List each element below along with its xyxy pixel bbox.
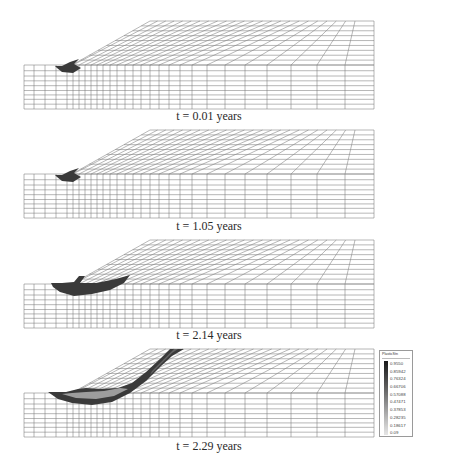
- legend-value: 0.47471: [390, 398, 412, 406]
- legend-value: 0.76324: [390, 375, 412, 383]
- legend-values: 0.9550 0.85942 0.76324 0.66706 0.57088 0…: [390, 360, 412, 437]
- panel-label-2: t = 2.14 years: [109, 328, 309, 343]
- legend-value: 0.66706: [390, 383, 412, 391]
- panel-label-0: t = 0.01 years: [109, 109, 309, 124]
- mesh-panel-1: [24, 130, 374, 218]
- mesh-panel-0: [24, 21, 374, 109]
- legend-value: 0.57088: [390, 391, 412, 399]
- legend-value: 0.9550: [390, 360, 412, 368]
- mesh-panel-3: [24, 349, 374, 437]
- legend-title: PlasticStn: [382, 352, 398, 356]
- legend-value: 0.28235: [390, 414, 412, 422]
- legend-value: 0.09: [390, 429, 412, 437]
- plastic-strain-legend: PlasticStn 0.9550 0.85942 0.76324 0.6670…: [379, 350, 413, 437]
- legend-value: 0.85942: [390, 368, 412, 376]
- panel-label-1: t = 1.05 years: [109, 219, 309, 234]
- legend-value: 0.18617: [390, 422, 412, 430]
- legend-divider: [382, 358, 410, 359]
- plastic-zone-3: [48, 349, 184, 405]
- legend-color-bar: [384, 361, 388, 435]
- mesh-panel-2: [24, 240, 374, 328]
- panel-label-3: t = 2.29 years: [109, 439, 309, 454]
- legend-value: 0.37853: [390, 406, 412, 414]
